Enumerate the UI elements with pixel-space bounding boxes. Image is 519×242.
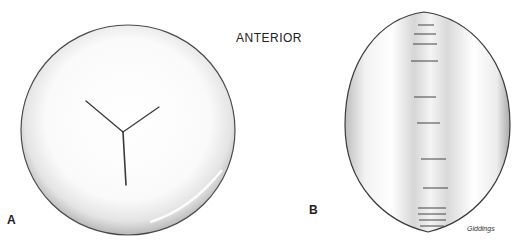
panel-label-a: A [7,213,16,227]
lens-side-view [345,12,510,232]
lens-anterior-view [21,25,235,235]
panel-label-b: B [309,203,318,217]
artist-signature: Giddings [467,225,495,232]
orientation-label: ANTERIOR [236,31,302,45]
